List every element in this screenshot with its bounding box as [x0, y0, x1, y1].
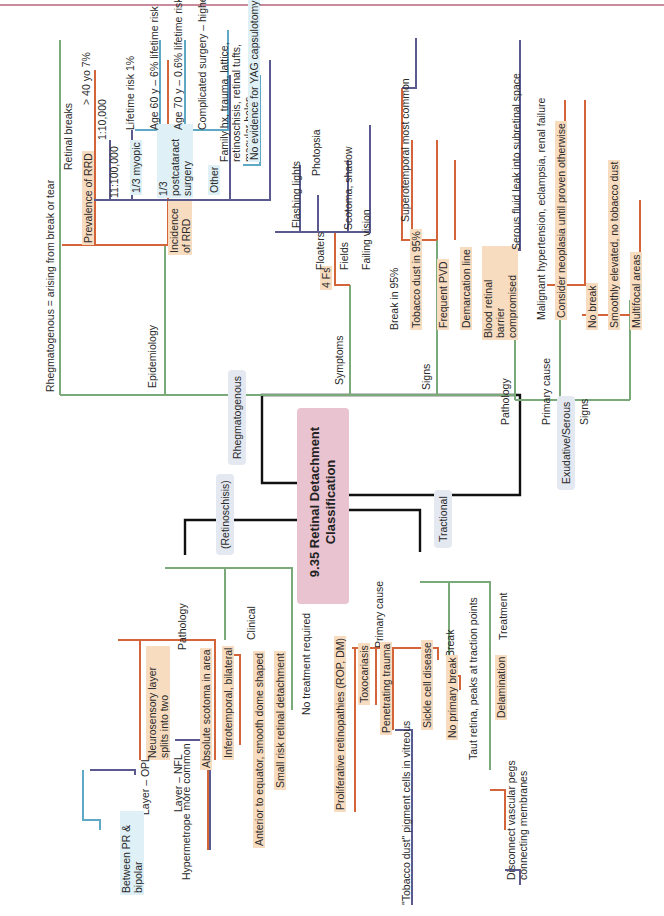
tractional-break: Break: [444, 630, 456, 657]
taut-retina: Taut retina, peaks at traction points: [467, 597, 479, 760]
brb-compromised: Blood retinal barrier compromised: [482, 246, 518, 340]
small-risk-rd: Small risk retinal detachment: [274, 651, 286, 790]
failing-vision: Failing vision: [360, 209, 372, 270]
one-third-postcataract: 1/3 postcataract surgery: [157, 124, 193, 198]
photopsia: Photopsia: [310, 129, 322, 176]
tobacco-dust-vitreous: "Tobacco dust" pigment cells in vitreous: [400, 721, 412, 905]
break-95: Break in 95%: [388, 268, 400, 330]
age-70: Age 70 y – 0.6% lifetime risk: [172, 0, 184, 130]
smoothly-elevated: Smoothly elevated, no tobacco dust: [608, 160, 620, 330]
incidence-value: 11:100,000: [108, 146, 120, 198]
serous-fluid: Serous fluid leak into subretinal space: [510, 73, 522, 250]
demarcation-line: Demarcation line: [460, 247, 472, 330]
epidemiology-label: Epidemiology: [146, 325, 158, 388]
center-title: 9.35 Retinal Detachment Classification: [307, 412, 339, 592]
prevalence-value: 1:10,000: [96, 99, 108, 140]
retinal-breaks-value: > 40 yo 7%: [80, 52, 92, 105]
symptoms-label: Symptoms: [333, 335, 345, 385]
superotemporal: Superotemporal most common: [399, 78, 411, 222]
schisis-pathology: Pathology: [176, 603, 188, 650]
tobacco-dust-95: Tobacco dust in 95%: [410, 229, 422, 330]
scotoma-shadow: Scotoma, shadow: [342, 147, 354, 230]
fields: Fields: [338, 242, 350, 270]
treatment-label: Treatment: [497, 593, 509, 640]
layer-opl: Layer – OPL: [139, 756, 151, 815]
exudative-primary-cause: Primary cause: [540, 358, 552, 425]
consider-neoplasia: Consider neoplasia until proven otherwis…: [555, 121, 567, 320]
age-60: Age 60 y – 6% lifetime risk: [148, 6, 160, 130]
sickle-cell: Sickle cell disease: [421, 640, 433, 730]
one-third-myopic: 1/3 myopic: [130, 140, 142, 195]
malignant-hypertension: Malignant hypertension, eclampsia, renal…: [535, 98, 547, 320]
exudative-pathology: Pathology: [499, 378, 511, 425]
inferotemporal: Inferotemporal, bilateral: [222, 646, 234, 760]
absolute-scotoma: Absolute scotoma in area: [200, 648, 212, 770]
incidence-rrd: Incidence of RRD: [168, 201, 192, 255]
proliferative-retinopathies: Proliferative retinopathies (ROP, DM): [334, 636, 346, 812]
lifetime-risk: Lifetime risk 1%: [124, 56, 136, 130]
branch-tractional: Tractional: [434, 490, 452, 548]
branch-rhegmatogenous: Rhegmatogenous: [228, 370, 246, 465]
penetrating-trauma: Penetrating trauma: [380, 642, 392, 735]
frequent-pvd: Frequent PVD: [437, 259, 449, 330]
between-pr-bipolar: Between PR & bipolar: [120, 811, 144, 895]
other-label: Other: [208, 165, 220, 195]
delamination: Delamination: [495, 655, 507, 720]
flashing-lights: Flashing lights: [290, 161, 302, 228]
no-primary-break: No primary break: [446, 655, 458, 740]
signs-label: Signs: [420, 364, 432, 390]
retinal-breaks: Retinal breaks: [62, 103, 74, 170]
toxocariasis: Toxocariasis: [358, 643, 370, 705]
hypermetrope: Hypermetrope more common: [180, 743, 192, 880]
multifocal-areas: Multifocal areas: [630, 252, 642, 330]
disconnect-vascular-pegs: Disconnect vascular pegs connecting memb…: [505, 740, 529, 880]
floaters: Floaters: [314, 232, 326, 270]
branch-exudative: Exudative/Serous: [557, 396, 575, 490]
anterior-equator: Anterior to equator, smooth dome shaped: [253, 651, 265, 848]
tractional-primary-cause: Primary cause: [373, 581, 385, 648]
no-yag-evidence: No evidence for YAG capsulotomy: [248, 0, 260, 162]
complicated-surgery: Complicated surgery – higher risk: [196, 0, 208, 130]
neurosensory-split: Neurosensory layer splits into two: [146, 646, 170, 760]
rheg-definition: Rhegmatogenous = arising from break or t…: [44, 180, 56, 392]
branch-retinoschisis: (Retinoschisis): [216, 474, 234, 555]
prevalence-rrd: Prevalence of RRD: [82, 151, 94, 245]
no-treatment: No treatment required: [300, 613, 312, 715]
exudative-signs: Signs: [578, 399, 590, 425]
no-break: No break: [586, 283, 598, 330]
clinical-label: Clinical: [245, 606, 257, 640]
